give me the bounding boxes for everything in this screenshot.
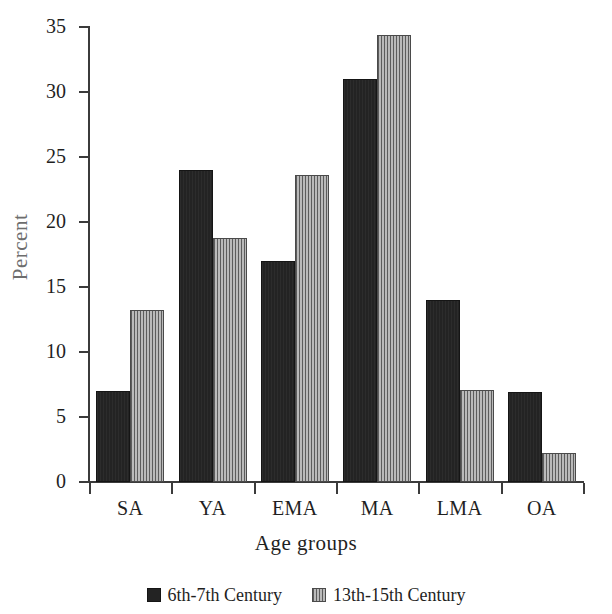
legend-swatch-icon [147,588,161,602]
x-tick-mark [171,483,173,494]
bar-sa-series1 [130,310,164,482]
y-tick-label: 25 [22,146,66,166]
plot-area [89,27,583,482]
bar-ma-series0 [343,79,377,482]
x-tick-mark [89,483,91,494]
y-tick-mark [79,286,89,288]
y-tick-mark [79,221,89,223]
bar-oa-series1 [542,453,576,482]
y-tick-mark [79,26,89,28]
legend-item-series1[interactable]: 13th-15th Century [312,585,466,605]
x-tick-mark [418,483,420,494]
bar-oa-series0 [508,392,542,482]
y-tick-label: 5 [22,406,66,426]
bar-ya-series0 [179,170,213,482]
bar-ya-series1 [213,238,247,482]
y-tick-label: 15 [22,276,66,296]
x-tick-mark [254,483,256,494]
bar-lma-series1 [460,390,494,482]
bar-ema-series0 [261,261,295,482]
bar-chart: Percent 05101520253035 SAYAEMAMALMAOA Ag… [0,0,612,614]
bar-lma-series0 [426,300,460,482]
y-tick-mark [79,481,89,483]
y-tick-label: 10 [22,341,66,361]
y-tick-label: 0 [22,471,66,491]
bar-ema-series1 [295,175,329,482]
bar-sa-series0 [96,391,130,482]
y-tick-label: 20 [22,211,66,231]
y-tick-label: 30 [22,81,66,101]
legend-item-series0[interactable]: 6th-7th Century [147,585,283,605]
y-tick-mark [79,156,89,158]
x-tick-mark [336,483,338,494]
y-tick-mark [79,416,89,418]
x-axis-title: Age groups [0,531,612,555]
legend-label: 6th-7th Century [168,585,283,605]
y-tick-mark [79,351,89,353]
legend-label: 13th-15th Century [333,585,466,605]
legend-swatch-icon [312,588,326,602]
x-tick-mark [583,483,585,494]
x-tick-mark [501,483,503,494]
x-tick-label-oa: OA [492,497,592,519]
chart-legend: 6th-7th Century13th-15th Century [0,585,612,605]
y-tick-mark [79,91,89,93]
y-tick-label: 35 [22,16,66,36]
bar-ma-series1 [377,35,411,482]
